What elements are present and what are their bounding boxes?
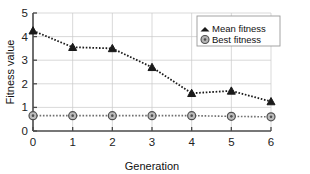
data-point-marker-center — [190, 114, 193, 117]
data-point-marker-center — [151, 114, 154, 117]
chart-canvas: 012345 0123456 Fitness value Generation … — [0, 0, 310, 174]
chart-legend: Mean fitness Best fitness — [197, 16, 280, 46]
data-point-marker-center — [71, 114, 74, 117]
y-tick-label: 2 — [22, 78, 28, 90]
x-tick-label: 6 — [268, 136, 274, 148]
y-axis-title: Fitness value — [4, 40, 16, 105]
fitness-chart-figure: 012345 0123456 Fitness value Generation … — [0, 0, 310, 174]
x-tick-label: 2 — [109, 136, 115, 148]
data-point-marker-center — [32, 114, 35, 117]
data-point-marker-center — [111, 114, 114, 117]
x-axis-title: Generation — [125, 160, 179, 172]
legend-label-best-fitness: Best fitness — [212, 34, 261, 45]
y-tick-label: 1 — [22, 101, 28, 113]
x-tick-label: 3 — [149, 136, 155, 148]
y-tick-label: 3 — [22, 54, 28, 66]
x-tick-label: 4 — [188, 136, 195, 148]
data-point-marker-center — [270, 116, 273, 119]
y-tick-label: 0 — [22, 125, 28, 137]
data-point-marker-center — [230, 115, 233, 118]
y-tick-label: 5 — [22, 7, 28, 19]
y-tick-label: 4 — [22, 31, 29, 43]
legend-label-mean-fitness: Mean fitness — [212, 23, 266, 34]
x-tick-label: 1 — [69, 136, 75, 148]
circle-marker-center-icon — [204, 38, 207, 41]
x-tick-label: 0 — [30, 136, 36, 148]
x-tick-label: 5 — [228, 136, 234, 148]
